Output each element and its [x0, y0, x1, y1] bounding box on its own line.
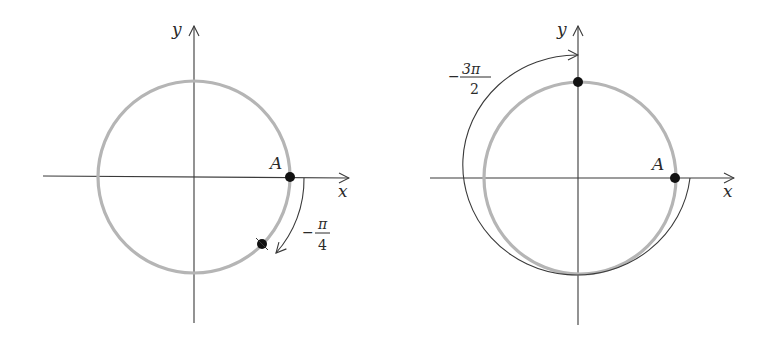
right-diagram: y x A − 3π 2	[430, 19, 734, 325]
angle-sign: −	[448, 68, 460, 84]
angle-label: − π 4	[302, 216, 330, 253]
point-a	[670, 173, 680, 183]
angle-sign: −	[302, 224, 314, 240]
angle-label: − 3π 2	[448, 61, 491, 97]
point-a-label: A	[268, 153, 282, 173]
x-axis	[43, 176, 349, 178]
endpoint	[573, 77, 583, 87]
angle-numerator: 3π	[462, 61, 481, 77]
y-axis-label: y	[171, 19, 182, 39]
x-axis-label: x	[338, 181, 348, 201]
angle-numerator: π	[317, 216, 328, 232]
x-axis-label: x	[723, 181, 733, 201]
left-diagram: y x A − π 4	[43, 19, 349, 323]
figure-canvas: y x A − π 4 y x A − 3π 2	[0, 0, 774, 341]
point-a-label: A	[650, 154, 664, 174]
angle-denominator: 4	[318, 237, 327, 253]
y-axis-label: y	[556, 19, 567, 39]
angle-denominator: 2	[470, 81, 479, 97]
point-a	[285, 172, 295, 182]
